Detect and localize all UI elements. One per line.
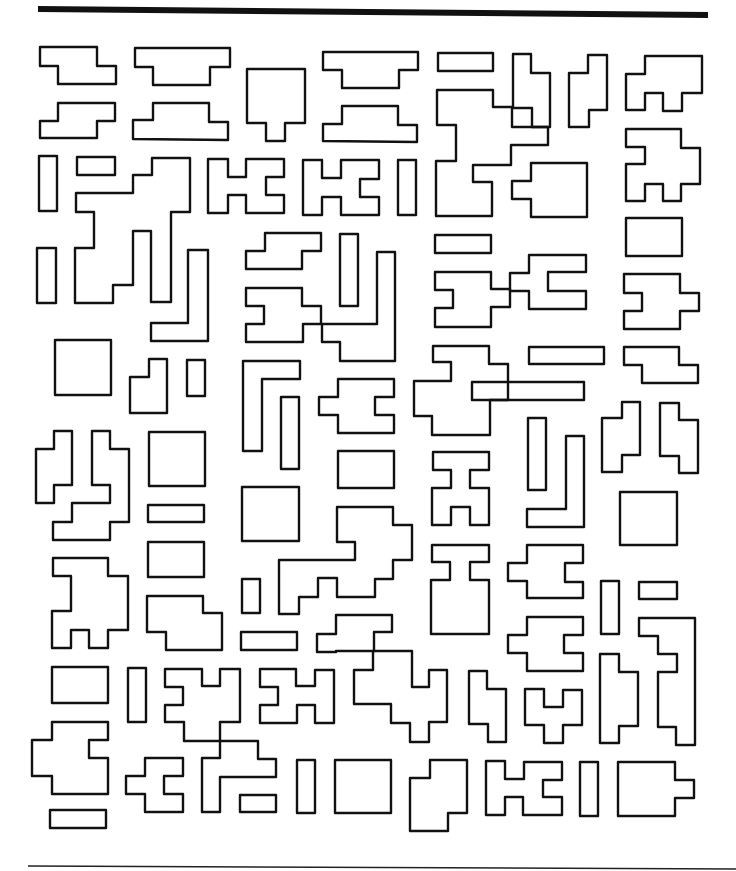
block-outline-s66 [52, 667, 108, 703]
block-outline-s38 [529, 347, 604, 364]
block-outline-s80 [410, 760, 467, 831]
block-outline-s55 [52, 558, 128, 648]
block-outline-s23 [151, 250, 208, 341]
block-outline-s68 [165, 669, 240, 741]
block-outline-s31 [55, 340, 111, 395]
block-outline-s19 [398, 160, 416, 215]
block-outline-s28 [435, 272, 510, 327]
block-outline-s4 [133, 103, 228, 140]
block-outline-s24 [246, 233, 321, 269]
block-outline-s2 [40, 103, 115, 138]
block-outline-s49 [602, 402, 640, 472]
block-outline-s6 [323, 52, 418, 88]
block-outline-s56 [431, 545, 489, 634]
block-outline-s22 [37, 248, 56, 303]
block-outline-s65 [639, 618, 695, 745]
block-outline-s33 [187, 360, 205, 396]
block-outline-s48 [527, 436, 584, 527]
block-outline-s21 [626, 218, 682, 256]
bottom-rule-line [28, 866, 736, 869]
block-outline-s25 [340, 234, 358, 306]
block-outline-s82 [580, 762, 598, 816]
block-outline-s64 [508, 617, 583, 671]
block-outline-s29 [510, 255, 586, 309]
block-outline-s5 [247, 69, 305, 141]
block-outline-s63 [317, 615, 392, 652]
block-outline-s47 [528, 418, 546, 490]
block-outline-s61 [639, 582, 677, 599]
block-outline-s45 [338, 451, 394, 488]
block-outline-diagram [0, 0, 736, 871]
block-outline-s67 [128, 668, 146, 722]
block-outline-s58 [147, 596, 222, 650]
block-outline-s43 [149, 432, 205, 486]
block-outline-s72 [525, 689, 582, 743]
block-outline-s59 [242, 579, 260, 613]
block-outline-s32 [130, 359, 167, 413]
block-outline-s79 [335, 760, 391, 813]
block-outline-s30 [624, 274, 699, 329]
block-outline-s1 [40, 47, 116, 84]
block-outline-s60 [601, 581, 619, 634]
block-outline-s83 [618, 762, 694, 816]
block-outline-s35 [281, 397, 299, 469]
block-outline-s8 [438, 53, 493, 71]
block-outline-s20 [512, 163, 587, 217]
block-outline-s39 [472, 382, 584, 400]
block-outline-s57 [508, 545, 583, 598]
block-outline-s50 [660, 403, 698, 473]
block-outline-s51 [620, 492, 677, 545]
block-outline-s14 [39, 156, 57, 211]
block-outline-s62 [241, 632, 297, 650]
block-outline-s52 [242, 487, 299, 541]
block-outline-s81 [486, 761, 562, 815]
block-outline-s27 [435, 235, 491, 253]
block-outline-s15 [77, 157, 115, 175]
block-outline-s10 [513, 54, 550, 127]
block-outline-s70 [354, 651, 447, 742]
block-outline-s16 [75, 158, 190, 303]
block-outline-s36 [319, 379, 394, 433]
block-outline-s71 [469, 671, 506, 742]
block-outline-s77 [240, 795, 276, 812]
block-outline-s3 [135, 48, 230, 85]
top-rule-line [38, 9, 708, 15]
block-outline-s7 [323, 106, 417, 142]
block-outline-s74 [32, 722, 108, 794]
block-outline-s73 [600, 654, 638, 743]
block-outline-s78 [297, 760, 315, 813]
block-outline-s17 [208, 159, 284, 213]
block-outline-s12 [626, 56, 702, 111]
shape-group [32, 47, 702, 831]
block-outline-s41 [36, 431, 72, 503]
block-outline-s13 [626, 129, 700, 201]
block-outline-s40 [624, 347, 698, 383]
block-outline-s75 [126, 758, 183, 812]
block-outline-s54 [148, 542, 204, 577]
block-outline-s84 [50, 810, 106, 828]
block-outline-s11 [569, 55, 607, 127]
block-outline-s46 [432, 452, 489, 525]
block-outline-s37 [414, 346, 508, 435]
block-outline-s34 [243, 361, 300, 451]
block-outline-s18 [303, 160, 379, 215]
block-outline-s44 [148, 505, 204, 522]
block-outline-s69 [260, 669, 334, 723]
